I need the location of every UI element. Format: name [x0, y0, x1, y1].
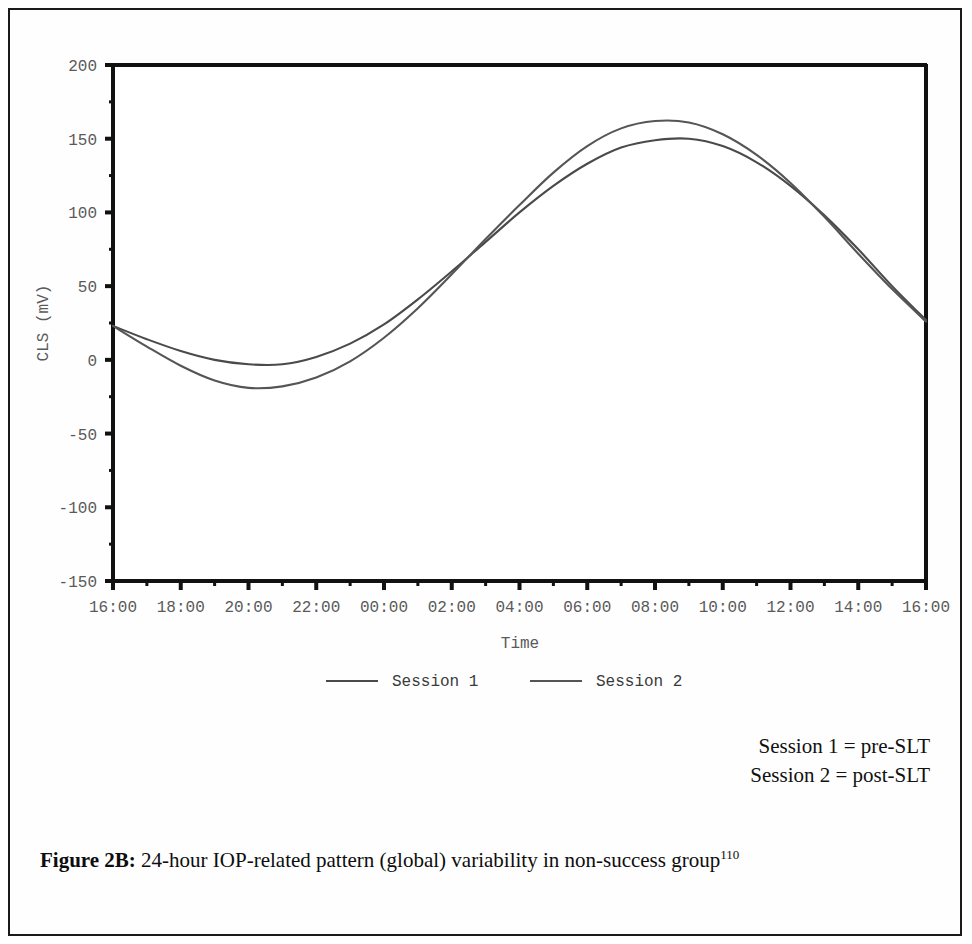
- x-tick-label: 16:00: [902, 599, 950, 617]
- x-tick-label: 20:00: [224, 599, 272, 617]
- y-axis-title: CLS (mV): [35, 285, 53, 362]
- x-tick-label: 06:00: [563, 599, 611, 617]
- y-tick-label: 150: [68, 132, 97, 150]
- x-tick-label: 18:00: [157, 599, 205, 617]
- page-border-frame: 200150100500-50-100-150 16:0018:0020:002…: [8, 8, 962, 936]
- y-tick-label: 100: [68, 205, 97, 223]
- line-chart: 200150100500-50-100-150 16:0018:0020:002…: [10, 10, 964, 710]
- x-tick-label: 02:00: [428, 599, 476, 617]
- x-tick-label: 22:00: [292, 599, 340, 617]
- session-legend-notes: Session 1 = pre-SLT Session 2 = post-SLT: [510, 732, 930, 790]
- legend-label-2: Session 2: [596, 673, 682, 691]
- session1-note: Session 1 = pre-SLT: [510, 732, 930, 761]
- figure-caption: Figure 2B: 24-hour IOP-related pattern (…: [40, 838, 940, 877]
- x-tick-label: 08:00: [631, 599, 679, 617]
- y-tick-label: 50: [78, 279, 97, 297]
- caption-label: Figure 2B:: [40, 848, 136, 872]
- session2-note: Session 2 = post-SLT: [510, 761, 930, 790]
- y-tick-label: -150: [59, 574, 97, 592]
- x-tick-label: 14:00: [834, 599, 882, 617]
- y-tick-label: -50: [68, 427, 97, 445]
- caption-text: 24-hour IOP-related pattern (global) var…: [136, 848, 720, 872]
- caption-reference: 110: [720, 847, 739, 862]
- y-tick-label: 200: [68, 58, 97, 76]
- x-tick-label: 16:00: [89, 599, 137, 617]
- figure-chart-area: 200150100500-50-100-150 16:0018:0020:002…: [10, 10, 964, 710]
- x-tick-label: 12:00: [766, 599, 814, 617]
- y-axis: 200150100500-50-100-150: [59, 58, 113, 592]
- x-tick-label: 10:00: [699, 599, 747, 617]
- chart-legend: Session 1Session 2: [326, 673, 682, 691]
- y-tick-label: -100: [59, 500, 97, 518]
- x-tick-label: 00:00: [360, 599, 408, 617]
- page-root: 200150100500-50-100-150 16:0018:0020:002…: [0, 0, 972, 944]
- x-axis: 16:0018:0020:0022:0000:0002:0004:0006:00…: [89, 581, 950, 617]
- x-tick-label: 04:00: [495, 599, 543, 617]
- y-tick-label: 0: [87, 353, 97, 371]
- plot-background: [112, 64, 927, 582]
- legend-label-1: Session 1: [392, 673, 478, 691]
- x-axis-title: Time: [501, 635, 539, 653]
